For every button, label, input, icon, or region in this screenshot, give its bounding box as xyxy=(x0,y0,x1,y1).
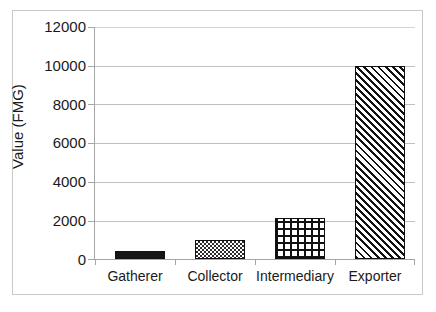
y-tick-label-12000: 12000 xyxy=(0,19,86,34)
bar-collector xyxy=(195,240,245,259)
x-label-gatherer: Gatherer xyxy=(95,268,175,284)
y-axis-tick-6000 xyxy=(88,143,95,144)
bar-intermediary xyxy=(275,218,325,259)
x-axis-tick-start xyxy=(95,259,96,265)
y-axis-tick-0 xyxy=(88,259,95,260)
y-axis-tick-12000 xyxy=(88,27,95,28)
bar-gatherer xyxy=(115,251,165,259)
y-tick-label-0: 0 xyxy=(0,252,86,267)
x-label-collector: Collector xyxy=(175,268,255,284)
y-axis-tick-8000 xyxy=(88,104,95,105)
bar-chart-figure: 12000 10000 8000 6000 4000 2000 0 Value … xyxy=(0,0,436,312)
x-axis-tick-2 xyxy=(255,259,256,265)
x-axis-tick-end xyxy=(414,259,415,265)
y-axis-tick-4000 xyxy=(88,182,95,183)
y-axis-tick-10000 xyxy=(88,66,95,67)
gridline-12000 xyxy=(95,27,415,28)
x-axis-tick-1 xyxy=(175,259,176,265)
y-axis-tick-2000 xyxy=(88,221,95,222)
y-axis-title: Value (FMG) xyxy=(9,47,26,207)
plot-area xyxy=(95,27,415,259)
x-label-exporter: Exporter xyxy=(335,268,415,284)
x-axis-tick-3 xyxy=(335,259,336,265)
y-tick-label-2000: 2000 xyxy=(0,213,86,228)
x-label-intermediary: Intermediary xyxy=(255,268,335,284)
bar-exporter xyxy=(355,66,405,259)
